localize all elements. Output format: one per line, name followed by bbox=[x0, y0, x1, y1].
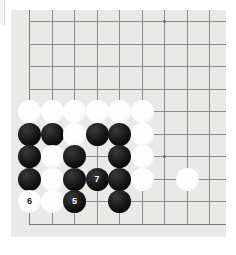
white-stone[interactable] bbox=[41, 168, 64, 191]
grid-line-vertical bbox=[164, 10, 165, 225]
black-stone[interactable] bbox=[86, 123, 109, 146]
grid-line-vertical bbox=[187, 10, 188, 225]
white-stone[interactable] bbox=[41, 145, 64, 168]
white-stone[interactable] bbox=[63, 100, 86, 123]
black-stone[interactable] bbox=[108, 190, 131, 213]
left-edge-sliver bbox=[0, 0, 5, 25]
grid-line-vertical bbox=[209, 10, 210, 225]
grid-line-horizontal bbox=[29, 66, 226, 67]
black-stone[interactable] bbox=[41, 123, 64, 146]
grid-line-horizontal bbox=[29, 21, 226, 22]
white-stone[interactable] bbox=[131, 123, 154, 146]
black-stone[interactable]: 5 bbox=[63, 190, 86, 213]
stone-move-number: 7 bbox=[94, 175, 99, 184]
black-stone[interactable]: 7 bbox=[86, 168, 109, 191]
black-stone[interactable] bbox=[18, 123, 41, 146]
white-stone[interactable] bbox=[131, 168, 154, 191]
screenshot-root: 765 bbox=[0, 0, 236, 255]
grid-line-horizontal bbox=[29, 44, 226, 45]
black-stone[interactable] bbox=[63, 168, 86, 191]
board-bottom-margin bbox=[11, 237, 226, 255]
star-point-icon bbox=[163, 155, 166, 158]
black-stone[interactable] bbox=[108, 123, 131, 146]
white-stone[interactable] bbox=[63, 123, 86, 146]
white-stone[interactable] bbox=[108, 100, 131, 123]
black-stone[interactable] bbox=[108, 168, 131, 191]
white-stone[interactable] bbox=[18, 100, 41, 123]
black-stone[interactable] bbox=[18, 168, 41, 191]
white-stone[interactable] bbox=[41, 100, 64, 123]
star-point-icon bbox=[163, 20, 166, 23]
white-stone[interactable] bbox=[176, 168, 199, 191]
go-board[interactable]: 765 bbox=[11, 10, 226, 237]
white-stone[interactable] bbox=[131, 100, 154, 123]
white-stone[interactable] bbox=[131, 145, 154, 168]
grid-line-horizontal bbox=[29, 224, 226, 225]
black-stone[interactable] bbox=[18, 145, 41, 168]
white-stone[interactable] bbox=[41, 190, 64, 213]
black-stone[interactable] bbox=[63, 145, 86, 168]
black-stone[interactable] bbox=[108, 145, 131, 168]
white-stone[interactable] bbox=[86, 100, 109, 123]
stone-move-number: 6 bbox=[27, 197, 32, 206]
white-stone[interactable]: 6 bbox=[18, 190, 41, 213]
grid-line-horizontal bbox=[29, 89, 226, 90]
stone-move-number: 5 bbox=[72, 197, 77, 206]
